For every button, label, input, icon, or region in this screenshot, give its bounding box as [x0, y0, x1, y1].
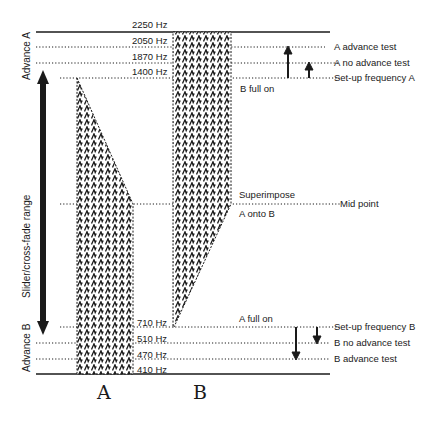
freq-2050: 2050 Hz [132, 36, 167, 46]
label-b-no-advance-test: B no advance test [334, 338, 410, 348]
label-superimpose: Superimpose [239, 190, 295, 200]
label-a-onto-b: A onto B [239, 209, 275, 219]
slider-range-arrow [37, 70, 49, 335]
label-b-full-on: B full on [240, 84, 274, 94]
advance-b-arrows [292, 327, 321, 360]
label-setup-frequency-a: Set-up frequency A [334, 73, 415, 83]
freq-470: 470 Hz [137, 350, 167, 360]
label-a-full-on: A full on [239, 314, 273, 324]
column-a-label: A [97, 383, 111, 402]
freq-1400: 1400 Hz [132, 67, 167, 77]
column-b-label: B [193, 383, 207, 402]
label-b-advance-test: B advance test [334, 354, 397, 364]
column-b-shape [173, 32, 231, 327]
label-a-no-advance-test: A no advance test [334, 58, 410, 68]
label-a-advance-test: A advance test [334, 42, 396, 52]
label-mid-point: Mid point [340, 199, 379, 209]
column-a-shape [77, 78, 133, 374]
label-advance-a: Advance A [22, 32, 32, 80]
label-setup-frequency-b: Set-up frequency B [334, 322, 415, 332]
label-slider-range: Slider/cross-fade range [22, 195, 32, 298]
freq-2250: 2250 Hz [132, 20, 167, 30]
advance-a-arrows [284, 46, 313, 78]
freq-510: 510 Hz [137, 334, 167, 344]
freq-710: 710 Hz [137, 318, 167, 328]
freq-1870: 1870 Hz [132, 52, 167, 62]
label-advance-b: Advance B [22, 324, 32, 372]
freq-410: 410 Hz [137, 365, 167, 375]
